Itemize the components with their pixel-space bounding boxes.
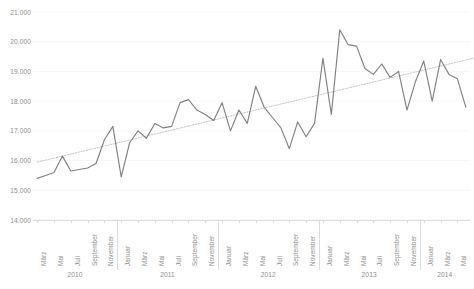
x-axis-tick xyxy=(239,220,240,223)
x-axis-month-label: Juli xyxy=(376,256,383,266)
x-axis-month-label: September xyxy=(91,234,98,266)
x-axis-tick xyxy=(273,220,274,223)
y-axis-tick-label: 15.000 xyxy=(10,187,31,194)
gridlines xyxy=(33,12,470,220)
x-axis-month-label: März xyxy=(343,251,350,266)
x-axis-month-label: März xyxy=(40,251,47,266)
x-axis-tick xyxy=(323,220,324,223)
x-axis-month-label: November xyxy=(208,236,215,266)
x-axis: MärzMaiJuliSeptemberNovemberJanuarMärzMa… xyxy=(33,220,470,289)
x-axis-tick xyxy=(121,220,122,223)
x-axis-tick xyxy=(138,220,139,223)
x-axis-month-label: Januar xyxy=(427,246,434,266)
x-axis-month-label: Januar xyxy=(326,246,333,266)
y-axis-tick-label: 20.000 xyxy=(10,38,31,45)
x-axis-tick xyxy=(37,220,38,223)
x-axis-month-label: Juli xyxy=(175,256,182,266)
x-axis-month-label: September xyxy=(292,234,299,266)
plot-svg xyxy=(33,12,470,220)
x-axis-tick xyxy=(441,220,442,223)
x-axis-month-label: Mai xyxy=(259,255,266,266)
x-axis-tick xyxy=(373,220,374,223)
x-axis-month-label: Januar xyxy=(124,246,131,266)
x-axis-line xyxy=(33,220,470,221)
year-separator xyxy=(218,220,219,270)
x-axis-tick xyxy=(104,220,105,223)
trendline-path xyxy=(37,58,474,162)
y-axis-tick-label: 16.000 xyxy=(10,157,31,164)
x-axis-month-label: September xyxy=(191,234,198,266)
y-axis-tick-label: 18.000 xyxy=(10,98,31,105)
y-axis-tick-label: 21.000 xyxy=(10,9,31,16)
x-axis-tick xyxy=(222,220,223,223)
x-axis-month-label: Juli xyxy=(276,256,283,266)
y-axis-tick-label: 14.000 xyxy=(10,217,31,224)
x-axis-year-label: 2010 xyxy=(33,271,117,279)
x-axis-month-label: Mai xyxy=(158,255,165,266)
x-axis-month-label: November xyxy=(309,236,316,266)
x-axis-month-label: November xyxy=(410,236,417,266)
x-axis-month-label: September xyxy=(393,234,400,266)
x-axis-tick xyxy=(407,220,408,223)
x-axis-month-label: Mai xyxy=(57,255,64,266)
x-axis-tick xyxy=(256,220,257,223)
x-axis-tick xyxy=(289,220,290,223)
x-axis-tick xyxy=(457,220,458,223)
x-axis-year-label: 2014 xyxy=(420,271,470,279)
y-axis-tick-label: 17.000 xyxy=(10,127,31,134)
x-axis-tick xyxy=(424,220,425,223)
y-axis-tick-label: 19.000 xyxy=(10,68,31,75)
x-axis-tick xyxy=(340,220,341,223)
line-chart: 14.00015.00016.00017.00018.00019.00020.0… xyxy=(0,0,474,289)
x-axis-tick xyxy=(88,220,89,223)
x-axis-tick xyxy=(155,220,156,223)
x-axis-month-label: Mai xyxy=(360,255,367,266)
x-axis-tick xyxy=(390,220,391,223)
x-axis-month-label: November xyxy=(107,236,114,266)
x-axis-year-label: 2011 xyxy=(117,271,218,279)
x-axis-tick xyxy=(188,220,189,223)
x-axis-tick xyxy=(205,220,206,223)
x-axis-tick xyxy=(71,220,72,223)
x-axis-tick xyxy=(54,220,55,223)
x-axis-tick xyxy=(357,220,358,223)
x-axis-tick xyxy=(172,220,173,223)
year-separator xyxy=(117,220,118,270)
x-axis-month-label: März xyxy=(141,251,148,266)
x-axis-month-label: März xyxy=(444,251,451,266)
x-axis-month-label: Juli xyxy=(74,256,81,266)
year-separator xyxy=(319,220,320,270)
x-axis-month-label: März xyxy=(242,251,249,266)
year-separator xyxy=(420,220,421,270)
x-axis-month-label: Mai xyxy=(460,255,467,266)
x-axis-year-label: 2013 xyxy=(319,271,420,279)
x-axis-month-label: Januar xyxy=(225,246,232,266)
x-axis-year-label: 2012 xyxy=(218,271,319,279)
plot-area xyxy=(33,12,470,220)
x-axis-tick xyxy=(306,220,307,223)
y-axis: 14.00015.00016.00017.00018.00019.00020.0… xyxy=(0,0,34,228)
data-series-path xyxy=(37,30,466,179)
